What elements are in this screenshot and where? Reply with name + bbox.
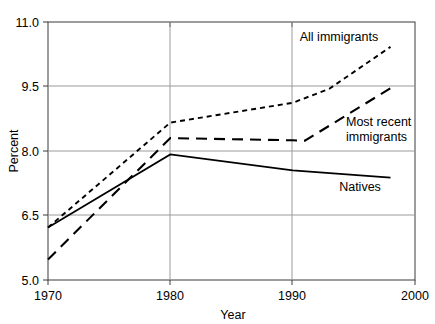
- y-axis-ticks: [43, 22, 48, 280]
- ytick-label-9-5: 9.5: [22, 80, 39, 94]
- y-axis-title: Percent: [7, 129, 21, 173]
- xtick-label-1970: 1970: [34, 289, 62, 303]
- series-annotation-natives: Natives: [339, 180, 381, 194]
- x-tick-labels: 1970 1980 1990 2000: [34, 289, 429, 303]
- series-annotation-most-recent-line2: immigrants: [346, 130, 407, 144]
- xtick-label-1990: 1990: [278, 289, 306, 303]
- series-annotation-all-immigrants: All immigrants: [300, 30, 379, 44]
- line-chart: 11.0 9.5 8.0 6.5 5.0 1970 1980 1990 2000…: [0, 0, 435, 324]
- xtick-label-1980: 1980: [156, 289, 184, 303]
- ytick-label-6-5: 6.5: [22, 209, 39, 223]
- chart-container: 11.0 9.5 8.0 6.5 5.0 1970 1980 1990 2000…: [0, 0, 435, 324]
- ytick-label-8-0: 8.0: [22, 145, 39, 159]
- x-axis-title: Year: [220, 308, 245, 322]
- xtick-label-2000: 2000: [401, 289, 429, 303]
- series-annotation-most-recent-line1: Most recent: [346, 115, 412, 129]
- ytick-label-5-0: 5.0: [22, 274, 39, 288]
- ytick-label-11-0: 11.0: [16, 16, 39, 30]
